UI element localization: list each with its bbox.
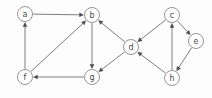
- node-label-b: b: [89, 11, 94, 20]
- arrowhead-a-b: [79, 13, 84, 18]
- graph-node-e: e: [189, 34, 204, 49]
- graph-edge-g-f: [33, 75, 84, 80]
- edges-layer: [23, 13, 192, 80]
- node-label-d: d: [128, 43, 133, 52]
- directed-graph-figure: abcdefgh: [0, 0, 212, 98]
- graph-edge-d-b: [98, 20, 124, 42]
- node-label-e: e: [194, 37, 199, 46]
- graph-node-g: g: [85, 70, 100, 85]
- edge-line-c-d: [140, 20, 166, 40]
- node-label-c: c: [170, 11, 174, 20]
- graph-edge-d-g: [98, 52, 124, 72]
- graph-node-c: c: [165, 8, 180, 23]
- arrowhead-h-c: [170, 23, 175, 28]
- edge-line-d-b: [101, 22, 125, 42]
- graph-edge-f-b: [31, 21, 86, 72]
- node-label-f: f: [24, 73, 27, 82]
- arrowhead-c-d: [137, 37, 142, 42]
- arrowhead-d-g: [98, 67, 103, 72]
- graph-edge-h-d: [137, 52, 165, 73]
- graph-edge-f-a: [23, 22, 28, 69]
- arrowhead-h-d: [137, 52, 142, 57]
- nodes-layer: abcdefgh: [18, 7, 204, 86]
- node-label-h: h: [169, 74, 174, 83]
- edge-line-h-d: [140, 54, 165, 73]
- edge-line-e-h: [178, 48, 191, 69]
- node-label-a: a: [23, 10, 28, 19]
- edge-line-f-b: [31, 23, 84, 72]
- graph-edge-b-g: [90, 23, 95, 69]
- graph-edge-h-c: [170, 23, 175, 70]
- graph-edge-c-d: [137, 20, 165, 42]
- arrowhead-b-g: [90, 64, 95, 69]
- graph-edge-c-e: [177, 21, 190, 35]
- graph-edge-a-b: [33, 13, 84, 18]
- graph-node-f: f: [18, 70, 33, 85]
- graph-node-h: h: [165, 71, 180, 86]
- graph-node-b: b: [85, 8, 100, 23]
- graph-edge-e-h: [176, 48, 191, 71]
- edge-line-c-e: [177, 21, 188, 33]
- arrowhead-f-a: [23, 22, 28, 27]
- graph-node-d: d: [124, 40, 139, 55]
- graph-node-a: a: [18, 7, 33, 22]
- node-label-g: g: [89, 73, 94, 82]
- arrowhead-e-h: [176, 66, 180, 71]
- arrowhead-g-f: [33, 75, 38, 80]
- edge-line-d-g: [101, 52, 124, 70]
- edge-line-a-b: [33, 14, 80, 15]
- graph-canvas: abcdefgh: [0, 0, 212, 98]
